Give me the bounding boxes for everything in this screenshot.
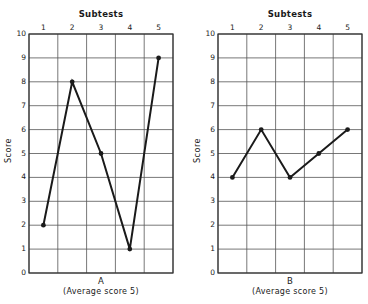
y-tick-label: 10 [12, 29, 26, 38]
y-tick-label: 1 [201, 244, 215, 253]
y-tick-label: 5 [201, 149, 215, 158]
x-tick-label: 4 [120, 23, 140, 32]
data-point-marker [41, 223, 46, 228]
data-point-marker [259, 127, 264, 132]
y-tick-label: 2 [12, 220, 26, 229]
y-tick-label: 0 [12, 268, 26, 277]
y-tick-label: 4 [12, 172, 26, 181]
panel-caption: (Average score 5) [218, 287, 362, 296]
y-tick-label: 8 [12, 77, 26, 86]
y-tick-label: 10 [201, 29, 215, 38]
y-tick-label: 0 [201, 268, 215, 277]
x-tick-label: 1 [33, 23, 53, 32]
chart-panel-a: Subtests 12345 012345678910 Score A (Ave… [0, 0, 184, 304]
y-tick-label: 3 [12, 196, 26, 205]
data-point-marker [288, 175, 293, 180]
y-axis-title: Score [193, 131, 202, 171]
plot-area [218, 34, 362, 273]
y-tick-label: 9 [201, 53, 215, 62]
y-tick-label: 8 [201, 77, 215, 86]
y-axis-title: Score [4, 131, 13, 171]
y-tick-label: 7 [12, 101, 26, 110]
y-tick-label: 2 [201, 220, 215, 229]
data-point-marker [230, 175, 235, 180]
x-axis-title: Subtests [29, 9, 173, 19]
y-tick-label: 1 [12, 244, 26, 253]
chart-panel-b: Subtests 12345 012345678910 Score B (Ave… [189, 0, 368, 304]
panel-caption: (Average score 5) [29, 287, 173, 296]
plot-area [29, 34, 173, 273]
y-tick-label: 6 [12, 125, 26, 134]
x-tick-label: 5 [338, 23, 358, 32]
y-tick-label: 4 [201, 172, 215, 181]
panel-label: A [29, 276, 173, 286]
panel-label: B [218, 276, 362, 286]
y-tick-label: 7 [201, 101, 215, 110]
x-axis-title: Subtests [218, 9, 362, 19]
x-tick-label: 3 [280, 23, 300, 32]
data-point-marker [70, 79, 75, 84]
data-point-marker [316, 151, 321, 156]
x-tick-label: 1 [222, 23, 242, 32]
x-tick-label: 4 [309, 23, 329, 32]
x-tick-label: 5 [149, 23, 169, 32]
data-point-marker [99, 151, 104, 156]
data-point-marker [127, 247, 132, 252]
x-tick-label: 2 [251, 23, 271, 32]
y-tick-label: 9 [12, 53, 26, 62]
y-tick-label: 3 [201, 196, 215, 205]
y-tick-label: 5 [12, 149, 26, 158]
x-tick-label: 2 [62, 23, 82, 32]
data-point-marker [156, 56, 161, 61]
x-tick-label: 3 [91, 23, 111, 32]
data-point-marker [345, 127, 350, 132]
y-tick-label: 6 [201, 125, 215, 134]
